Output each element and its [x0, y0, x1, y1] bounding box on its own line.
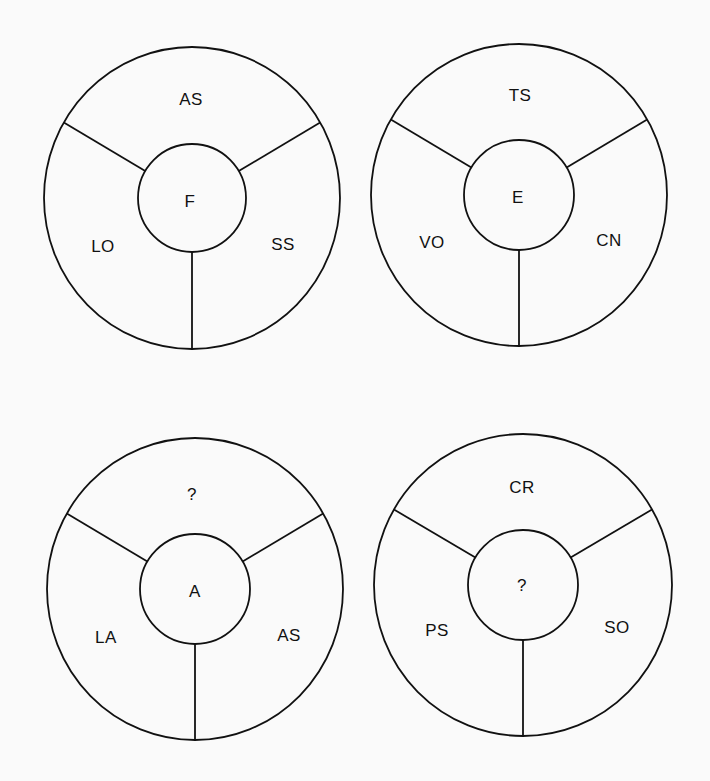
wheel-bottom-left-top-label: ?: [187, 485, 197, 505]
wheel-bottom-left-left-label: LA: [95, 628, 117, 648]
wheel-top-right-center-label: E: [512, 188, 524, 208]
spoke-upper-right: [567, 120, 648, 168]
spoke-upper-left: [394, 510, 475, 558]
wheel-top-left-left-label: LO: [91, 237, 115, 257]
wheel-top-left-center-label: F: [185, 192, 196, 212]
wheel-bottom-right-center-label: ?: [517, 576, 527, 596]
wheel-bottom-left-right-label: AS: [277, 626, 301, 646]
wheel-top-right-right-label: CN: [596, 231, 622, 251]
wheel-top-right-left-label: VO: [419, 233, 445, 253]
wheel-top-left-top-label: AS: [179, 90, 203, 110]
spoke-upper-left: [391, 120, 472, 168]
wheel-puzzle-diagram: [0, 0, 710, 781]
spoke-upper-right: [239, 123, 320, 172]
wheel-bottom-right-right-label: SO: [604, 618, 630, 638]
wheel-bottom-right-left-label: PS: [425, 621, 449, 641]
spoke-upper-right: [571, 510, 652, 558]
wheel-top-right-top-label: TS: [509, 86, 532, 106]
wheel-top-left-right-label: SS: [271, 235, 295, 255]
spoke-upper-right: [243, 514, 324, 562]
wheel-bottom-left-center-label: A: [189, 582, 201, 602]
wheel-bottom-right-top-label: CR: [509, 478, 535, 498]
spoke-upper-left: [67, 514, 148, 562]
spoke-upper-left: [64, 123, 145, 172]
